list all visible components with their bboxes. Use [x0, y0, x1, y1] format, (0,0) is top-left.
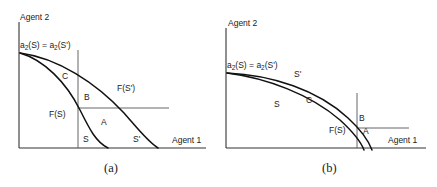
- region-label-A: A: [101, 118, 107, 127]
- curve-label-S: S: [83, 135, 89, 144]
- region-label-A: A: [363, 127, 369, 136]
- panel-b: Agent 2 Agent 1 a2(S) = a2(S') S' S C B …: [218, 0, 437, 187]
- intercept-label: a2(S) = a2(S'): [227, 61, 278, 71]
- curve-S-prime: [227, 73, 372, 150]
- panel-a: Agent 2 Agent 1 a2(S) = a2(S') C B A F(S…: [0, 0, 218, 187]
- panel-a-plot: [0, 0, 218, 187]
- function-label-F-of-S-prime: F(S'): [117, 84, 135, 93]
- intercept-mid: (S) = a: [235, 60, 261, 70]
- curve-label-S: S: [274, 100, 280, 109]
- intercept-suffix: (S'): [58, 40, 71, 50]
- y-axis-label: Agent 2: [228, 19, 257, 28]
- function-label-F-of-S: F(S): [49, 110, 66, 119]
- region-label-B: B: [84, 93, 90, 102]
- region-label-C: C: [306, 96, 312, 105]
- region-label-C: C: [62, 72, 68, 81]
- panel-caption-b: (b): [322, 162, 337, 175]
- function-label-F-of-S: F(S): [329, 126, 346, 135]
- region-label-B: B: [359, 114, 365, 123]
- figure-root: Agent 2 Agent 1 a2(S) = a2(S') C B A F(S…: [0, 0, 437, 187]
- panel-b-plot: [218, 0, 437, 187]
- intercept-suffix: (S'): [265, 60, 278, 70]
- y-axis-label: Agent 2: [20, 13, 49, 22]
- curve-S: [227, 73, 364, 150]
- x-axis-label: Agent 1: [388, 136, 417, 145]
- x-axis-label: Agent 1: [172, 136, 201, 145]
- curve-label-S-prime: S': [133, 135, 140, 144]
- intercept-label: a2(S) = a2(S'): [20, 41, 71, 51]
- panel-caption-a: (a): [104, 162, 118, 175]
- curve-label-S-prime: S': [294, 70, 301, 79]
- intercept-mid: (S) = a: [28, 40, 54, 50]
